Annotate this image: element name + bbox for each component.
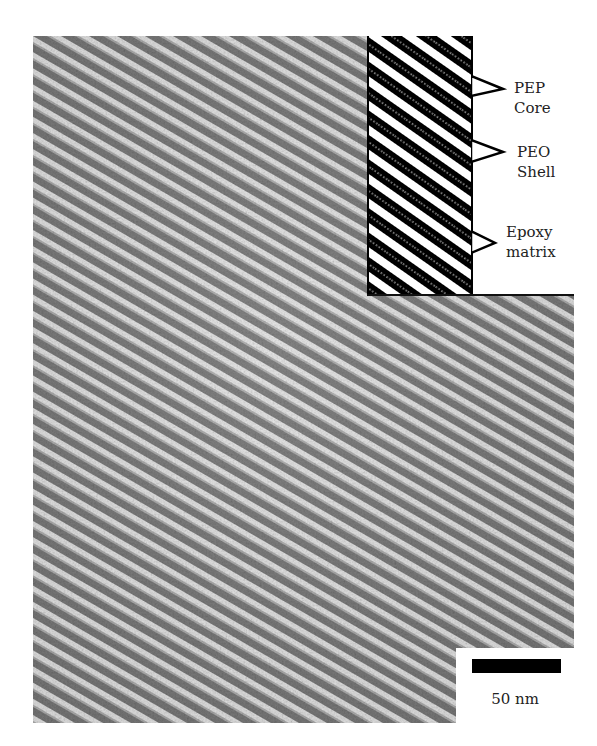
shell-label-line2: Shell	[517, 162, 555, 182]
inset-pointers	[471, 36, 511, 294]
inset-stripe-panel	[367, 36, 473, 294]
schematic-inset: PEP Core PEO Shell Epoxy matrix	[367, 36, 574, 296]
epoxy-label-line1: Epoxy	[506, 222, 556, 242]
scale-bar-box: 50 nm	[456, 648, 574, 723]
scale-bar	[472, 659, 561, 673]
pep-label-line1: PEP	[514, 78, 551, 98]
core-label-line2: Core	[514, 98, 551, 118]
epoxy-matrix-pointer-icon	[471, 231, 495, 253]
matrix-label-line2: matrix	[506, 242, 556, 262]
pep-core-label: PEP Core	[514, 78, 551, 118]
scale-bar-label: 50 nm	[456, 690, 574, 708]
epoxy-matrix-label: Epoxy matrix	[506, 222, 556, 262]
peo-shell-pointer-icon	[471, 140, 503, 162]
peo-shell-label: PEO Shell	[517, 142, 555, 182]
pep-core-pointer-icon	[471, 76, 503, 96]
peo-label-line1: PEO	[517, 142, 555, 162]
